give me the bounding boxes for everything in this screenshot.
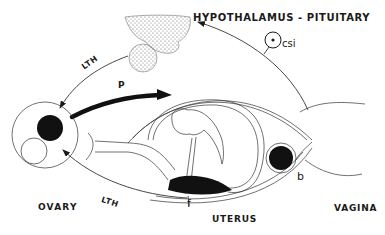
lth-lower-arrow <box>63 150 187 198</box>
progesterone-arrow <box>72 89 172 117</box>
uterus-label: UTERUS <box>212 214 257 224</box>
ovary <box>12 102 78 168</box>
reproductive-feedback-diagram <box>0 0 385 235</box>
f-label: f <box>187 197 191 210</box>
csi-feedback-arrow <box>198 22 308 110</box>
ovary-label: OVARY <box>38 202 78 212</box>
pituitary-gland <box>125 15 190 72</box>
hypothalamus-pituitary-label: HYPOTHALAMUS - PITUITARY <box>193 12 370 23</box>
p-label: P <box>118 80 125 90</box>
b-label: b <box>297 170 304 183</box>
csi-label: csi <box>282 38 296 49</box>
vagina <box>300 102 365 175</box>
vagina-label: VAGINA <box>334 203 377 213</box>
csi-symbol-icon <box>264 32 281 54</box>
placenta <box>168 176 232 195</box>
